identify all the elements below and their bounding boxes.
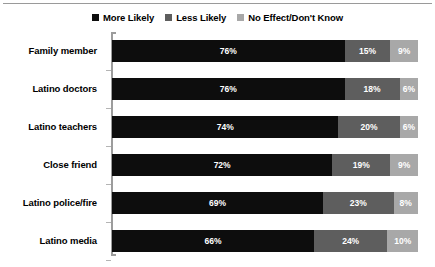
bar-segment-1-2: 15%: [345, 40, 391, 62]
bar-value-label: 72%: [214, 161, 231, 170]
bar-value-label: 23%: [350, 199, 367, 208]
bar-value-label: 9%: [398, 161, 410, 170]
bar-segment-6-1: 66%: [112, 230, 314, 252]
bar-segment-1-3: 9%: [390, 40, 418, 62]
table-row: Latino police/fire69%23%8%: [0, 184, 435, 222]
category-label-2: Latino doctors: [0, 84, 104, 94]
legend-swatch-more-likely: [92, 14, 99, 21]
bar-segment-4-2: 19%: [332, 154, 390, 176]
table-row: Latino media66%24%10%: [0, 222, 435, 260]
bar-value-label: 76%: [220, 47, 237, 56]
bar-value-label: 76%: [220, 85, 237, 94]
legend-swatch-no-effect: [237, 14, 244, 21]
stacked-bar-chart: More Likely Less Likely No Effect/Don't …: [0, 0, 435, 267]
category-label-5: Latino police/fire: [0, 198, 104, 208]
bar-value-label: 6%: [403, 123, 415, 132]
bar-segment-5-1: 69%: [112, 192, 323, 214]
bar-value-label: 66%: [204, 237, 221, 246]
bar-segment-2-3: 6%: [400, 78, 418, 100]
bar-segment-5-3: 8%: [394, 192, 418, 214]
table-row: Latino teachers74%20%6%: [0, 108, 435, 146]
legend-label-more-likely: More Likely: [103, 13, 154, 23]
stacked-bar-5: 69%23%8%: [112, 192, 418, 214]
category-label-4: Close friend: [0, 160, 104, 170]
category-label-6: Latino media: [0, 236, 104, 246]
category-label-3: Latino teachers: [0, 122, 104, 132]
legend-entry-more-likely: More Likely: [92, 13, 154, 23]
stacked-bar-3: 74%20%6%: [112, 116, 418, 138]
plot-area: Family member76%15%9%Latino doctors76%18…: [0, 30, 435, 260]
bar-segment-5-2: 23%: [323, 192, 393, 214]
stacked-bar-2: 76%18%6%: [112, 78, 418, 100]
table-row: Latino doctors76%18%6%: [0, 70, 435, 108]
bar-segment-3-3: 6%: [400, 116, 418, 138]
bar-segment-3-1: 74%: [112, 116, 338, 138]
legend-label-no-effect: No Effect/Don't Know: [248, 13, 343, 23]
bar-value-label: 74%: [217, 123, 234, 132]
bar-segment-6-3: 10%: [387, 230, 418, 252]
bar-value-label: 24%: [342, 237, 359, 246]
bar-value-label: 20%: [361, 123, 378, 132]
bar-value-label: 6%: [403, 85, 415, 94]
legend-label-less-likely: Less Likely: [176, 13, 226, 23]
chart-legend: More Likely Less Likely No Effect/Don't …: [0, 13, 435, 23]
category-label-1: Family member: [0, 46, 104, 56]
table-row: Family member76%15%9%: [0, 32, 435, 70]
bar-segment-2-2: 18%: [345, 78, 400, 100]
top-divider-rule: [3, 3, 432, 4]
bar-segment-3-2: 20%: [338, 116, 399, 138]
bar-segment-2-1: 76%: [112, 78, 345, 100]
bar-value-label: 19%: [353, 161, 370, 170]
bar-value-label: 69%: [209, 199, 226, 208]
bar-value-label: 18%: [364, 85, 381, 94]
stacked-bar-4: 72%19%9%: [112, 154, 418, 176]
bar-value-label: 8%: [400, 199, 412, 208]
bar-segment-4-1: 72%: [112, 154, 332, 176]
bar-value-label: 10%: [394, 237, 411, 246]
table-row: Close friend72%19%9%: [0, 146, 435, 184]
bar-segment-1-1: 76%: [112, 40, 345, 62]
legend-entry-less-likely: Less Likely: [165, 13, 226, 23]
legend-swatch-less-likely: [165, 14, 172, 21]
bar-segment-4-3: 9%: [390, 154, 418, 176]
stacked-bar-6: 66%24%10%: [112, 230, 418, 252]
legend-entry-no-effect: No Effect/Don't Know: [237, 13, 343, 23]
bar-value-label: 9%: [398, 47, 410, 56]
bar-segment-6-2: 24%: [314, 230, 387, 252]
stacked-bar-1: 76%15%9%: [112, 40, 418, 62]
bar-value-label: 15%: [359, 47, 376, 56]
